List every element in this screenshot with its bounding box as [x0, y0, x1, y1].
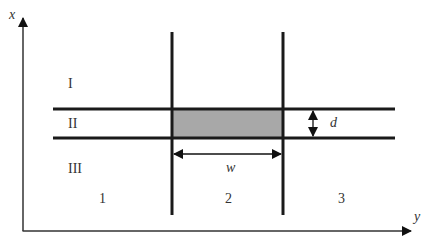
region-label-III: III: [68, 161, 82, 176]
vertical-axis-label: x: [8, 7, 16, 22]
horizontal-axis-label: y: [412, 209, 421, 224]
shaded-region: [172, 109, 283, 138]
region-label-1: 1: [99, 191, 106, 206]
thickness-label: d: [330, 115, 338, 130]
region-label-2: 2: [225, 191, 232, 206]
region-label-I: I: [68, 76, 73, 91]
region-label-3: 3: [338, 191, 345, 206]
diagram-canvas: x y w d I II III 1 2 3: [0, 0, 431, 242]
width-label: w: [226, 160, 236, 175]
region-label-II: II: [68, 116, 78, 131]
